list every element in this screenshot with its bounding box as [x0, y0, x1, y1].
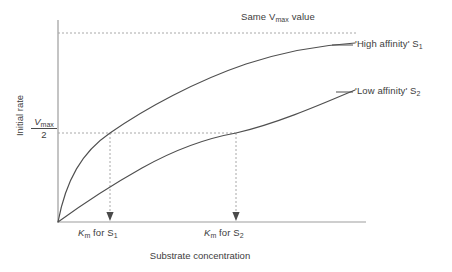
km-s2-arrowhead-icon: [232, 212, 239, 221]
km-s1-tick-label: Km for S1: [78, 228, 118, 239]
half-vmax-v: V: [34, 116, 40, 127]
half-vmax-max-subscript: max: [41, 121, 54, 128]
same-vmax-subscript: max: [275, 16, 289, 23]
km2-series-subscript: 2: [240, 232, 244, 239]
y-axis-title: Initial rate: [14, 76, 25, 156]
curve1-label-subscript: 1: [419, 43, 423, 50]
michaelis-menten-figure: Same Vmax value 'High affinity' S1 'Low …: [0, 0, 452, 272]
km2-for-s: for S: [216, 227, 239, 238]
km2-m-subscript: m: [210, 232, 216, 239]
same-vmax-text: Same V: [241, 11, 275, 22]
x-axis-title: Substrate concentration: [0, 250, 400, 261]
km1-m-subscript: m: [84, 232, 90, 239]
half-vmax-denominator: 2: [31, 129, 57, 140]
half-vmax-numerator: Vmax: [31, 117, 57, 129]
km1-series-subscript: 1: [114, 232, 118, 239]
km-s1-arrowhead-icon: [106, 212, 113, 221]
curve-label-low-affinity: 'Low affinity' S2: [355, 86, 421, 97]
curve-low-affinity-s2: [58, 90, 355, 222]
km1-for-s: for S: [90, 227, 113, 238]
same-vmax-annotation: Same Vmax value: [241, 12, 315, 23]
curve2-label-subscript: 2: [417, 90, 421, 97]
same-vmax-tail: value: [289, 11, 315, 22]
km-s2-tick-label: Km for S2: [204, 228, 244, 239]
curve1-label-text: 'High affinity' S: [355, 38, 419, 49]
curve-label-high-affinity: 'High affinity' S1: [355, 39, 423, 50]
half-vmax-axis-label: Vmax 2: [31, 117, 57, 140]
curve2-label-text: 'Low affinity' S: [355, 85, 417, 96]
